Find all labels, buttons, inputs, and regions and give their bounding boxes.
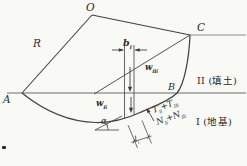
fill-weight-arrowhead-icon <box>128 87 132 92</box>
fill-region-label: II (填土) <box>197 76 237 86</box>
foundation-weight-label: wIi <box>96 99 107 110</box>
point-o-label: O <box>86 2 95 13</box>
radius-line-oa <box>22 15 92 93</box>
slice-width-label: bi <box>123 38 131 50</box>
scan-speck <box>2 146 6 149</box>
radius-line-oc <box>92 15 190 35</box>
point-a-label: A <box>3 94 11 105</box>
fill-weight-label: wIIi <box>145 63 158 74</box>
embankment-slope-line <box>94 35 190 94</box>
point-b-label: B <box>168 82 175 92</box>
foundation-weight-arrow <box>129 97 133 113</box>
base-length-extension-right <box>142 121 152 144</box>
foundation-region-label: I (地基) <box>196 117 232 127</box>
slope-stability-slice-diagram: O C B A R bi wIIi wIi II (填土) I (地基) TIi… <box>0 0 247 166</box>
point-c-label: C <box>197 22 205 33</box>
base-angle-label: αi <box>101 117 108 128</box>
radius-label: R <box>33 38 41 49</box>
foundation-weight-arrowhead-icon <box>129 108 133 113</box>
dimension-arrow-right-icon <box>135 48 140 52</box>
